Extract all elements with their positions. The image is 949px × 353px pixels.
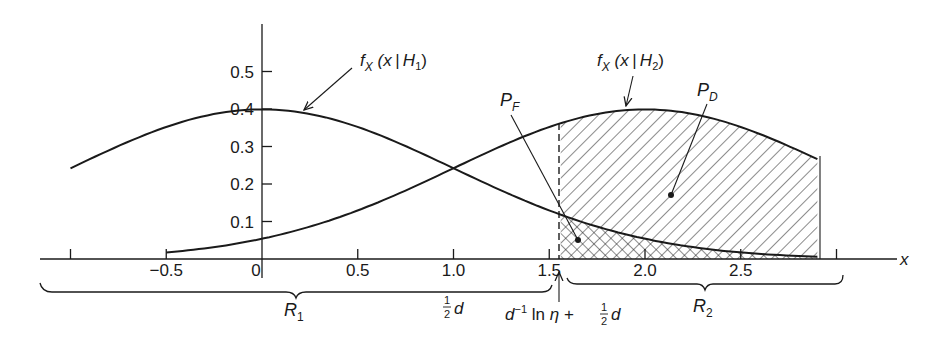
x-tick-label: 0	[251, 261, 260, 280]
pf-label: PF	[500, 90, 520, 114]
svg-text:d−1 ln η +: d−1 ln η +	[505, 303, 574, 324]
svg-text:d: d	[611, 305, 621, 324]
curve-h1-arrow	[304, 68, 352, 110]
svg-text:1: 1	[444, 294, 450, 306]
r2-brace	[567, 275, 843, 290]
y-axis-ticks: 0.10.20.30.40.5	[230, 63, 272, 232]
x-tick-label: 0.5	[346, 261, 370, 280]
x-axis-label: x	[899, 250, 909, 269]
x-tick-label: 2.0	[633, 261, 657, 280]
detection-chart: −0.500.51.01.52.02.5 0.10.20.30.40.5 x f…	[0, 0, 949, 353]
x-tick-label: 2.5	[729, 261, 753, 280]
x-tick-label: 1.0	[442, 261, 466, 280]
half-d-label: 1 2 d	[443, 294, 464, 320]
x-tick-label: −0.5	[149, 261, 183, 280]
svg-text:d: d	[454, 299, 464, 318]
threshold-label: d−1 ln η + 1 2 d	[505, 301, 621, 327]
svg-text:2: 2	[444, 308, 450, 320]
x-tick-label: 1.5	[537, 261, 561, 280]
y-tick-label: 0.2	[230, 175, 254, 194]
y-tick-label: 0.1	[230, 213, 254, 232]
r1-label: R1	[284, 300, 304, 324]
pd-label: PD	[697, 80, 718, 104]
r1-brace	[40, 283, 552, 298]
svg-text:1: 1	[601, 301, 607, 313]
pf-pointer-dot	[575, 237, 581, 243]
curve-h1-label: fX (x | H1)	[360, 51, 427, 74]
curve-h2-label: fX (x | H2)	[597, 51, 664, 74]
y-tick-label: 0.3	[230, 138, 254, 157]
curve-h2-arrow	[626, 76, 633, 106]
r2-label: R2	[693, 296, 713, 320]
svg-text:2: 2	[601, 315, 607, 327]
pd-pointer-dot	[668, 192, 674, 198]
y-tick-label: 0.5	[230, 63, 254, 82]
